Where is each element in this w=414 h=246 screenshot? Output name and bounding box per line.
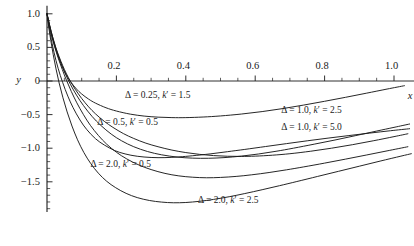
curve-annotation-5: Δ = 2.0, k′ = 2.5	[198, 196, 259, 206]
y-tick-label-1: 0.5	[27, 42, 40, 53]
curve-0	[47, 14, 404, 118]
x-tick-label-2: 0.6	[246, 61, 259, 72]
x-tick-label-1: 0.4	[177, 61, 190, 72]
curve-2	[47, 14, 410, 159]
x-tick-label-0: 0.2	[107, 61, 120, 72]
curve-annotation-4: Δ = 2.0, k′ = 0.5	[90, 160, 151, 170]
curves-layer	[47, 14, 411, 203]
y-tick-label-0: 1.0	[27, 9, 40, 20]
curve-annotation-1: Δ = 0.5, k′ = 0.5	[97, 118, 158, 128]
y-tick-label-3: −0.5	[21, 110, 40, 121]
axes-layer	[39, 6, 414, 212]
plot-canvas	[0, 0, 414, 246]
y-axis-label: y	[16, 75, 21, 86]
y-tick-label-2: 0	[35, 76, 40, 87]
curve-5	[47, 14, 411, 203]
y-tick-label-5: −1.5	[21, 177, 40, 188]
x-axis-label: x	[408, 91, 413, 102]
curve-annotation-2: Δ = 1.0, k′ = 2.5	[281, 106, 342, 116]
x-tick-label-3: 0.8	[316, 61, 329, 72]
x-tick-label-4: 1.0	[385, 61, 398, 72]
curve-annotation-3: Δ = 1.0, k′ = 5.0	[281, 123, 342, 133]
y-tick-label-4: −1.0	[21, 143, 40, 154]
curve-annotation-0: Δ = 0.25, k′ = 1.5	[125, 91, 190, 101]
figure-container: 0.20.40.60.81.01.00.50−0.5−1.0−1.5yxΔ = …	[0, 0, 414, 246]
